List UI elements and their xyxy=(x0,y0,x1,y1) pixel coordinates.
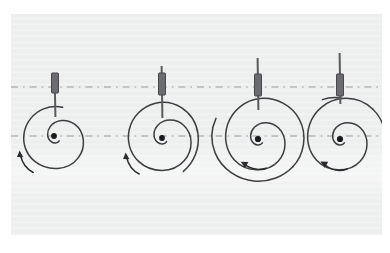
spiral-center-dot-2 xyxy=(159,135,165,141)
stage-3 xyxy=(212,58,304,181)
spiral-center-dot-3 xyxy=(255,136,261,142)
spiral-sequence-diagram xyxy=(0,0,390,253)
spiral-curve-4 xyxy=(308,98,373,169)
rotation-arrow-2 xyxy=(123,153,139,174)
pendulum-bob-1 xyxy=(52,73,59,93)
pendulum-bob-4 xyxy=(337,74,344,96)
rotation-arrow-3 xyxy=(241,162,267,170)
figure-root xyxy=(0,0,390,253)
pendulum-bob-3 xyxy=(255,74,262,96)
spiral-center-dot-4 xyxy=(337,136,343,142)
stage-2 xyxy=(123,66,198,174)
rotation-arrow-1 xyxy=(17,151,33,173)
pendulum-bob-2 xyxy=(159,73,166,95)
stage-4 xyxy=(308,53,386,170)
stage-1 xyxy=(17,73,83,173)
reference-axes xyxy=(11,87,390,136)
spiral-center-dot-1 xyxy=(51,133,57,139)
spiral-outer-tail-3 xyxy=(212,118,293,181)
spiral-curve-3 xyxy=(226,98,304,169)
spiral-outer-tail-4 xyxy=(373,109,386,138)
